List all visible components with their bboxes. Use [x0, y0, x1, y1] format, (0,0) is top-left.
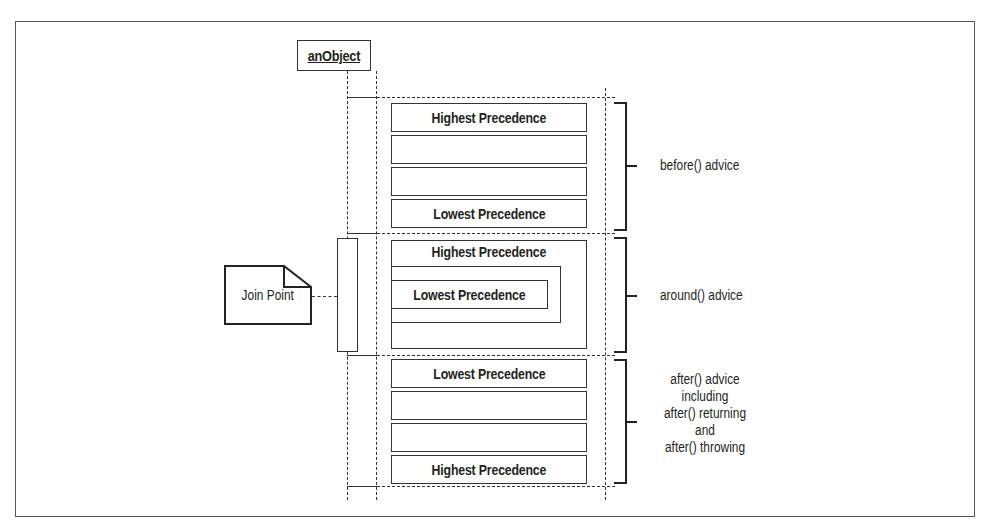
before-advice-label: before() advice [660, 157, 739, 174]
join-point-note: Join Point [224, 286, 312, 304]
lifeline-inner [376, 71, 377, 500]
after-label-line: after() advice [654, 371, 756, 388]
bracket-around-tick [627, 295, 637, 297]
after-label-line: including [654, 388, 756, 405]
before-advice-box-4: Lowest Precedence [391, 199, 587, 228]
divider-around-after [377, 355, 615, 356]
divider-cap-1 [347, 233, 377, 234]
activation-bar [337, 238, 358, 352]
join-point-label: Join Point [242, 287, 294, 303]
around-inner-left-edge [391, 280, 392, 309]
around-advice-inner-box: Lowest Precedence [391, 280, 548, 309]
bracket-after [614, 359, 627, 484]
after-label-line: after() throwing [654, 439, 756, 456]
top-cap [347, 97, 377, 98]
precedence-label: Highest Precedence [432, 109, 547, 126]
bracket-before [614, 102, 627, 231]
after-label-line: after() returning [654, 405, 756, 422]
around-inner-label: Lowest Precedence [413, 286, 525, 303]
precedence-label: Lowest Precedence [433, 365, 545, 382]
lifeline-right [605, 88, 606, 500]
after-advice-box-3 [391, 423, 587, 452]
after-advice-label: after() advice including after() returni… [654, 371, 756, 456]
object-box: anObject [297, 40, 371, 71]
after-advice-box-4: Highest Precedence [391, 455, 587, 484]
around-outer-label: Highest Precedence [432, 243, 547, 260]
object-label: anObject [308, 47, 361, 64]
bracket-after-tick [627, 421, 637, 423]
divider-top [377, 97, 615, 98]
after-label-line: and [654, 422, 756, 439]
precedence-label: Lowest Precedence [433, 205, 545, 222]
bracket-before-tick [627, 165, 637, 167]
divider-bottom [377, 486, 615, 487]
divider-cap-2 [347, 355, 377, 356]
bracket-around [614, 237, 627, 353]
before-advice-box-3 [391, 167, 587, 196]
after-advice-box-2 [391, 391, 587, 420]
after-advice-box-1: Lowest Precedence [391, 359, 587, 388]
before-advice-box-2 [391, 135, 587, 164]
around-advice-label: around() advice [660, 287, 743, 304]
precedence-label: Highest Precedence [432, 461, 547, 478]
join-point-connector [312, 296, 337, 297]
before-advice-box-1: Highest Precedence [391, 103, 587, 132]
bottom-cap [347, 486, 377, 487]
divider-before-around [377, 233, 615, 234]
